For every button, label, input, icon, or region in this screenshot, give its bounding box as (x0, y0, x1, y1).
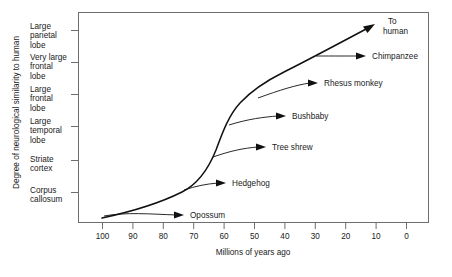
annotation-bushbaby: Bushbaby (229, 112, 329, 125)
x-tick-text-70: 70 (189, 232, 199, 241)
chimpanzee-arrowhead (356, 53, 366, 60)
to-human-label-line1: To (388, 17, 397, 26)
x-tick-text-30: 30 (311, 232, 321, 241)
rhesus-monkey-arrowhead (308, 80, 318, 87)
x-tick-text-100: 100 (96, 232, 110, 241)
plot-frame (79, 13, 429, 223)
hedgehog-arrowhead (216, 180, 226, 187)
x-axis-ticks (103, 223, 407, 230)
x-tick-text-60: 60 (220, 232, 230, 241)
tree-shrew-leader-line (213, 147, 258, 157)
x-tick-text-0: 0 (404, 232, 409, 241)
x-tick-text-40: 40 (280, 232, 290, 241)
to-human-label-line2: human (383, 27, 408, 36)
hedgehog-label: Hedgehog (232, 179, 270, 188)
annotation-tree-shrew: Tree shrew (213, 143, 313, 157)
rhesus-monkey-label: Rhesus monkey (324, 79, 384, 88)
annotation-rhesus-monkey: Rhesus monkey (258, 79, 384, 98)
opossum-label: Opossum (190, 211, 225, 220)
evolution-neurological-similarity-chart: Degree of neurological similarity to hum… (0, 0, 452, 277)
x-axis-tick-labels: 100 90 80 70 60 50 40 30 20 10 0 (96, 232, 410, 241)
x-tick-text-10: 10 (372, 232, 382, 241)
x-tick-text-20: 20 (341, 232, 351, 241)
x-tick-text-50: 50 (250, 232, 260, 241)
annotation-to-human: To human (383, 17, 408, 36)
annotation-chimpanzee: Chimpanzee (316, 52, 418, 61)
bushbaby-label: Bushbaby (292, 112, 329, 121)
tree-shrew-arrowhead (256, 144, 266, 151)
y-axis-ticks (71, 31, 79, 193)
x-tick-text-90: 90 (128, 232, 138, 241)
curve-arrowhead (363, 24, 375, 33)
chimpanzee-label: Chimpanzee (372, 52, 418, 61)
plot-area: 100 90 80 70 60 50 40 30 20 10 0 Opossum… (0, 0, 452, 277)
annotation-opossum: Opossum (104, 211, 225, 220)
hedgehog-leader-line (184, 183, 218, 190)
tree-shrew-label: Tree shrew (272, 143, 313, 152)
rhesus-monkey-leader-line (258, 83, 310, 98)
bushbaby-leader-line (229, 116, 278, 125)
opossum-arrowhead (174, 212, 184, 219)
bushbaby-arrowhead (276, 113, 286, 120)
x-tick-text-80: 80 (159, 232, 169, 241)
